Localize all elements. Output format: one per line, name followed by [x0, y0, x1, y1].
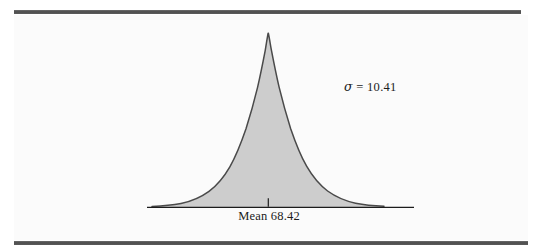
- mean-axis-label: Mean 68.42: [199, 209, 339, 224]
- top-horizontal-rule: [14, 10, 521, 14]
- normal-distribution-figure: σ = 10.41 Mean 68.42: [0, 0, 534, 249]
- sigma-value: 10.41: [367, 80, 397, 94]
- sigma-symbol: σ: [344, 79, 353, 94]
- sigma-equals: =: [353, 80, 367, 94]
- sigma-annotation: σ = 10.41: [344, 79, 397, 95]
- bottom-horizontal-rule: [14, 241, 528, 245]
- figure-panel: [14, 15, 528, 240]
